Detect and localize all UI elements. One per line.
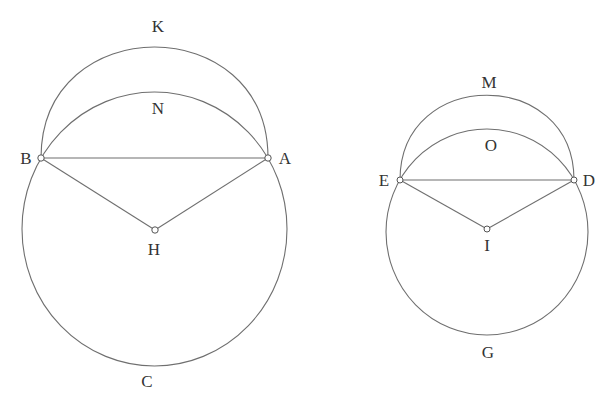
left-figure: K N B A H C <box>20 17 292 391</box>
label-o: O <box>485 136 497 155</box>
point-h <box>152 227 158 233</box>
label-e: E <box>379 171 389 190</box>
label-n: N <box>152 99 164 118</box>
label-b: B <box>20 149 31 168</box>
label-k: K <box>152 17 165 36</box>
point-d <box>571 177 577 183</box>
label-i: I <box>484 236 490 255</box>
point-b <box>38 155 44 161</box>
point-e <box>397 177 403 183</box>
segment-ah <box>155 158 268 230</box>
label-h: H <box>148 240 160 259</box>
point-a <box>265 155 271 161</box>
segment-bh <box>41 158 155 230</box>
label-d: D <box>583 171 595 190</box>
point-i <box>484 226 490 232</box>
label-m: M <box>481 73 496 92</box>
segment-ei <box>400 180 487 229</box>
right-figure: M O E D I G <box>379 73 595 362</box>
label-a: A <box>279 149 292 168</box>
label-c: C <box>141 372 152 391</box>
segment-di <box>487 180 574 229</box>
geometry-diagram: K N B A H C M O E D I G <box>0 0 605 395</box>
label-g: G <box>482 343 494 362</box>
